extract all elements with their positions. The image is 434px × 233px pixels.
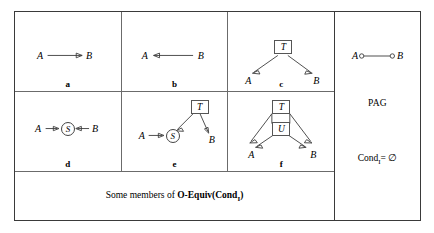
figure-container: A B a A B b <box>14 11 421 221</box>
cond-label: Cond <box>358 153 379 163</box>
panel-row-middle: A S B d A S T B e <box>15 92 334 172</box>
caption-prefix: Some members of <box>106 190 178 200</box>
panel-c: T A B c <box>228 12 334 91</box>
caption-bold: O-Equiv(Cond <box>177 190 237 200</box>
panel-f-caption: f <box>228 159 334 169</box>
pag-title: PAG <box>335 98 420 108</box>
panel-a: A B a <box>15 12 122 91</box>
panel-row-top: A B a A B b <box>15 12 334 92</box>
panel-e: A S T B e <box>122 92 229 171</box>
node-t-box: T <box>272 100 290 114</box>
pag-column: A B PAG CondI= ∅ <box>335 12 420 220</box>
node-b-label: B <box>92 123 98 134</box>
pag-graph <box>335 12 420 92</box>
grid-caption: Some members of O-Equiv(CondI) <box>15 172 334 220</box>
node-s-circle: S <box>166 129 180 143</box>
node-b-label: B <box>209 134 215 145</box>
node-t-box: T <box>274 40 292 54</box>
panel-b: A B b <box>122 12 229 91</box>
panel-a-caption: a <box>15 79 121 89</box>
panel-c-caption: c <box>228 79 334 89</box>
equivalence-class-grid: A B a A B b <box>15 12 335 220</box>
caption-text: Some members of O-Equiv(CondI) <box>106 190 244 203</box>
node-b-label: B <box>86 50 92 61</box>
panel-f: T U A B f <box>228 92 334 171</box>
node-a-label: A <box>142 50 148 61</box>
pag-graph-cell: A B <box>335 12 420 92</box>
node-a-label: A <box>37 50 43 61</box>
caption-bold-end: ) <box>240 190 243 200</box>
node-u-box: U <box>272 122 290 136</box>
pag-node-a-label: A <box>352 50 358 61</box>
node-t-box: T <box>191 100 209 114</box>
pag-cond-statement: CondI= ∅ <box>335 152 420 166</box>
panel-b-caption: b <box>122 79 228 89</box>
node-s-circle: S <box>61 122 75 136</box>
pag-node-b-label: B <box>397 50 403 61</box>
cond-value: = ∅ <box>381 153 398 163</box>
panel-e-caption: e <box>122 159 228 169</box>
panel-d: A S B d <box>15 92 122 171</box>
panel-d-caption: d <box>15 159 121 169</box>
node-a-label: A <box>35 123 41 134</box>
node-a-label: A <box>139 130 145 141</box>
node-b-label: B <box>198 50 204 61</box>
